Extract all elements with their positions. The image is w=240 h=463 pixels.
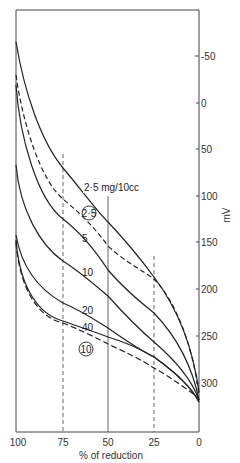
x-tick-label: 50 (102, 437, 114, 448)
x-axis-labels: 100 75 50 25 0 (10, 437, 203, 448)
y-tick-label: 250 (201, 331, 218, 342)
label-20: 20 (82, 305, 94, 316)
y-axis-title: mV (221, 207, 232, 222)
label-40: 40 (82, 322, 94, 333)
y-tick-label: 200 (201, 284, 218, 295)
curve-20 (16, 235, 199, 402)
x-tick-label: 100 (10, 437, 27, 448)
curve-2-5-circled-dashed (16, 75, 199, 396)
label-2-5-mg-per-10cc: 2·5 mg/10cc (84, 182, 139, 193)
y-tick-label: -50 (201, 51, 216, 62)
y-tick-label: 0 (201, 98, 207, 109)
reference-lines (63, 154, 154, 432)
x-axis-title: % of reduction (79, 450, 143, 461)
curve-10 (16, 165, 199, 400)
label-5: 5 (82, 233, 88, 244)
y-tick-label: 100 (201, 191, 218, 202)
label-2-5-circled: 2·5 (82, 208, 97, 219)
x-tick-label: 0 (196, 437, 202, 448)
x-tick-label: 75 (57, 437, 69, 448)
label-10-circled: 10 (80, 344, 92, 355)
y-axis-labels: -50 0 50 100 150 200 250 300 (201, 51, 218, 389)
curve-2-5-solid (16, 42, 199, 392)
y-tick-label: 300 (201, 378, 218, 389)
curve-40 (16, 240, 199, 402)
y-tick-label: 150 (201, 237, 218, 248)
y-tick-label: 50 (201, 144, 213, 155)
curves (16, 42, 199, 402)
label-10: 10 (82, 267, 94, 278)
y-axis-ticks (195, 56, 199, 383)
curve-10-circled-dashed (16, 242, 199, 398)
x-tick-label: 25 (148, 437, 160, 448)
chart: -50 0 50 100 150 200 250 300 mV 100 75 5… (0, 0, 240, 463)
curve-labels: 2·5 mg/10cc 2·5 5 10 20 40 10 (79, 181, 139, 356)
